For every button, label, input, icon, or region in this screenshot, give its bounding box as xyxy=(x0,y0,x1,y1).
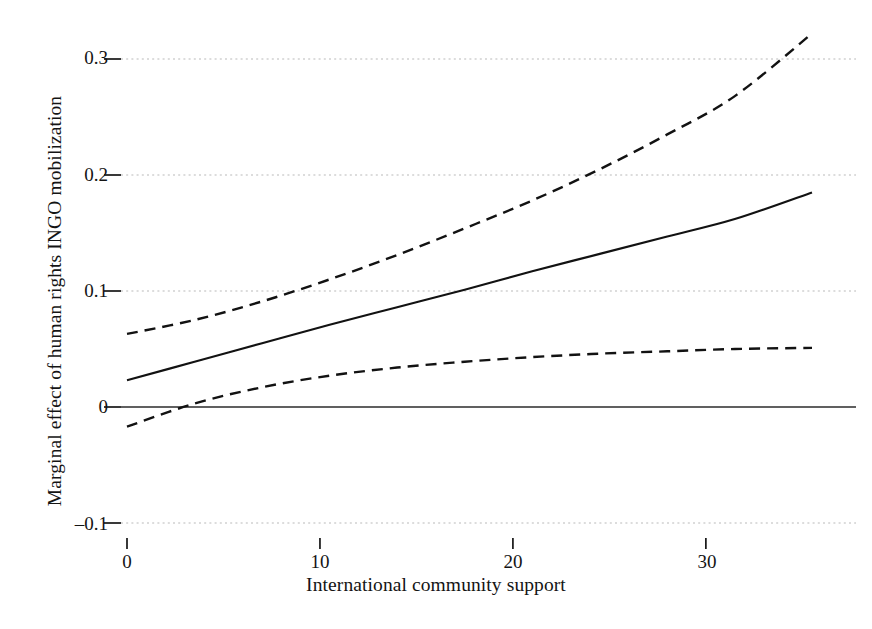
marginal-effect-chart: Marginal effect of human rights INGO mob… xyxy=(0,0,872,629)
x-axis-tick-marks xyxy=(127,538,706,549)
marginal-effect-line xyxy=(127,192,812,380)
y-axis-tick-marks xyxy=(104,59,121,523)
plot-area xyxy=(0,0,872,629)
gridlines xyxy=(121,59,856,523)
confidence-band-lower-line xyxy=(127,348,812,427)
